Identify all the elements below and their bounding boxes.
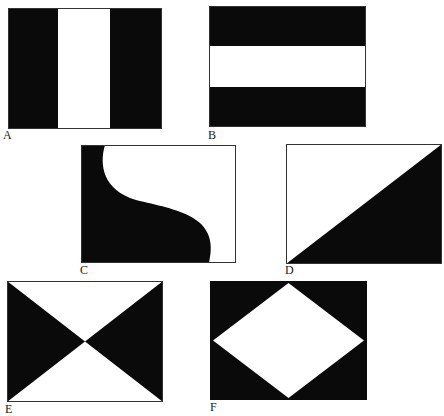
panel-a-label: A xyxy=(3,129,12,141)
panel-f-label: F xyxy=(210,401,217,413)
diagonal-flag xyxy=(286,144,442,264)
panel-a xyxy=(8,8,162,129)
panel-d-label: D xyxy=(285,264,294,276)
hourglass-flag xyxy=(7,281,163,402)
diamond-flag xyxy=(210,281,367,400)
panel-e-label: E xyxy=(5,403,12,415)
vertical-stripes-flag xyxy=(8,8,162,129)
panel-d xyxy=(286,144,442,264)
panel-b-label: B xyxy=(208,129,216,141)
panel-c-label: C xyxy=(80,264,88,276)
horizontal-stripes-flag xyxy=(209,6,366,127)
panel-b xyxy=(209,6,366,127)
panel-f xyxy=(210,281,367,400)
panel-c xyxy=(81,145,236,263)
s-curve-flag xyxy=(81,145,236,263)
panel-e xyxy=(7,281,163,402)
